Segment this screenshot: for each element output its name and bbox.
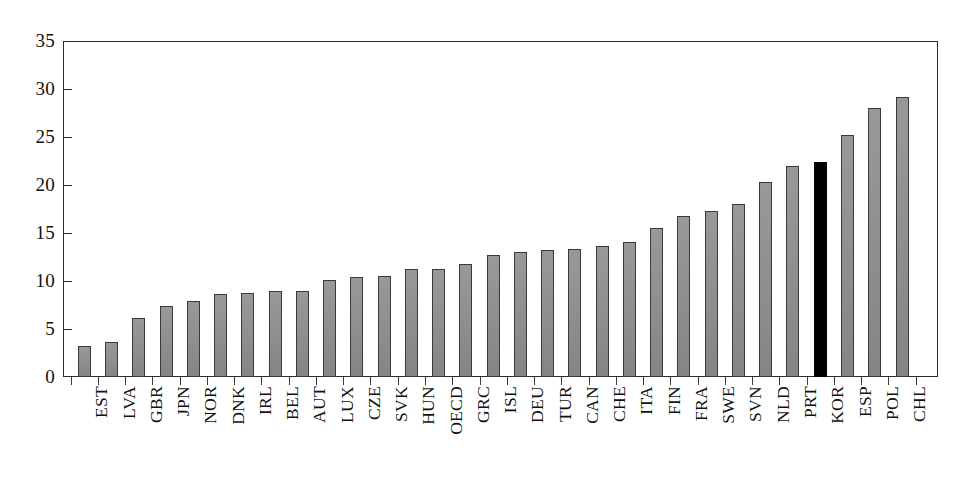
x-tick-mark xyxy=(180,377,181,385)
bar-aut xyxy=(296,291,309,377)
x-axis-label-oecd: OECD xyxy=(446,386,467,435)
x-axis-label-fra: FRA xyxy=(691,386,712,421)
y-tick-label: 20 xyxy=(0,174,55,196)
x-tick-mark xyxy=(779,377,780,385)
y-tick-label: 0 xyxy=(0,366,55,388)
bar-chart: 05101520253035 ESTLVAGBRJPNNORDNKIRLBELA… xyxy=(0,0,966,477)
x-tick-mark xyxy=(670,377,671,385)
bar-hun xyxy=(405,269,418,377)
x-axis-label-est: EST xyxy=(91,386,112,418)
x-axis-label-prt: PRT xyxy=(800,386,821,418)
x-tick-mark xyxy=(125,377,126,385)
x-tick-mark xyxy=(343,377,344,385)
bar-gbr xyxy=(132,318,145,377)
bar-jpn xyxy=(160,306,173,377)
y-tick-label: 15 xyxy=(0,222,55,244)
x-axis-label-pol: POL xyxy=(882,386,903,420)
bar-svk xyxy=(378,276,391,377)
x-tick-mark xyxy=(152,377,153,385)
x-axis-label-nor: NOR xyxy=(200,386,221,424)
bar-lux xyxy=(323,280,336,377)
bar-isl xyxy=(487,255,500,377)
x-axis-label-irl: IRL xyxy=(255,386,276,415)
x-axis-label-kor: KOR xyxy=(827,386,848,424)
bar-lva xyxy=(105,342,118,377)
bar-nor xyxy=(187,301,200,377)
x-axis-label-hun: HUN xyxy=(418,386,439,425)
x-tick-mark xyxy=(480,377,481,385)
bar-ita xyxy=(623,242,636,377)
bar-oecd xyxy=(432,269,445,377)
x-tick-mark xyxy=(370,377,371,385)
bar-esp xyxy=(841,135,854,377)
bar-bel xyxy=(269,291,282,377)
x-axis-label-fin: FIN xyxy=(664,386,685,415)
x-tick-mark xyxy=(643,377,644,385)
x-tick-mark xyxy=(698,377,699,385)
x-tick-mark xyxy=(916,377,917,385)
x-tick-mark xyxy=(71,377,72,385)
bar-grc xyxy=(459,264,472,377)
x-tick-mark xyxy=(752,377,753,385)
x-tick-mark xyxy=(425,377,426,385)
x-axis-label-che: CHE xyxy=(609,386,630,422)
x-tick-mark xyxy=(507,377,508,385)
bar-can xyxy=(568,249,581,377)
x-axis-label-svn: SVN xyxy=(745,386,766,422)
y-tick-mark xyxy=(63,329,72,330)
y-tick-mark xyxy=(63,185,72,186)
y-tick-label: 30 xyxy=(0,78,55,100)
x-axis-label-lva: LVA xyxy=(119,386,140,419)
x-axis-label-isl: ISL xyxy=(500,386,521,413)
x-axis-label-ita: ITA xyxy=(636,386,657,415)
bar-svn xyxy=(732,204,745,377)
x-tick-mark xyxy=(725,377,726,385)
y-tick-mark xyxy=(63,89,72,90)
x-tick-mark xyxy=(807,377,808,385)
bar-deu xyxy=(514,252,527,377)
bar-che xyxy=(596,246,609,377)
x-axis-label-lux: LUX xyxy=(337,386,358,423)
y-tick-mark xyxy=(63,233,72,234)
x-axis-label-gbr: GBR xyxy=(146,386,167,423)
x-tick-mark xyxy=(589,377,590,385)
x-axis-label-nld: NLD xyxy=(773,386,794,423)
bar-cze xyxy=(350,277,363,377)
bar-swe xyxy=(705,211,718,377)
x-tick-mark xyxy=(616,377,617,385)
x-axis-label-aut: AUT xyxy=(309,386,330,423)
x-axis-label-jpn: JPN xyxy=(173,386,194,416)
bar-prt xyxy=(786,166,799,377)
x-tick-mark xyxy=(888,377,889,385)
y-tick-label: 25 xyxy=(0,126,55,148)
x-axis-label-chl: CHL xyxy=(909,386,930,422)
x-axis-label-deu: DEU xyxy=(527,386,548,423)
x-tick-mark xyxy=(452,377,453,385)
x-axis-label-dnk: DNK xyxy=(228,386,249,425)
x-tick-mark xyxy=(207,377,208,385)
y-tick-label: 5 xyxy=(0,318,55,340)
x-axis-label-grc: GRC xyxy=(473,386,494,423)
bar-irl xyxy=(241,293,254,377)
x-axis-label-can: CAN xyxy=(582,386,603,424)
y-tick-mark xyxy=(63,281,72,282)
bar-pol xyxy=(868,108,881,377)
x-tick-mark xyxy=(289,377,290,385)
bar-fra xyxy=(677,216,690,377)
bar-nld xyxy=(759,182,772,377)
x-tick-mark xyxy=(861,377,862,385)
x-tick-mark xyxy=(234,377,235,385)
x-tick-mark xyxy=(398,377,399,385)
bar-tur xyxy=(541,250,554,377)
bar-est xyxy=(78,346,91,377)
x-axis-label-bel: BEL xyxy=(282,386,303,420)
bar-kor xyxy=(814,162,827,377)
bars-layer xyxy=(63,41,938,377)
x-axis-label-swe: SWE xyxy=(718,386,739,424)
bar-fin xyxy=(650,228,663,377)
x-tick-mark xyxy=(316,377,317,385)
x-axis-label-svk: SVK xyxy=(391,386,412,422)
x-axis-labels: ESTLVAGBRJPNNORDNKIRLBELAUTLUXCZESVKHUNO… xyxy=(63,386,938,477)
bar-chl xyxy=(896,97,909,377)
x-axis-ticks xyxy=(63,377,938,386)
